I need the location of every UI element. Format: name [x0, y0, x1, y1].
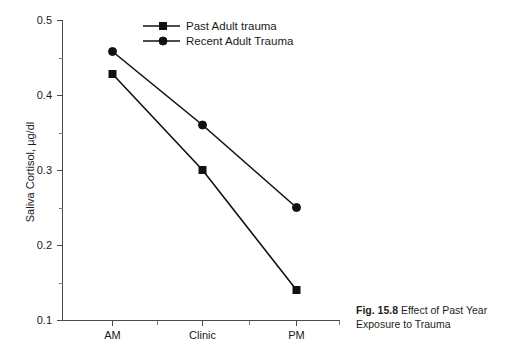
figure-number: Fig. 15.8	[356, 304, 398, 316]
y-tick-label-3: 0.2	[37, 239, 52, 251]
legend-marker-circle-recent	[159, 37, 167, 45]
series-layer	[109, 48, 301, 294]
y-tick-label-2: 0.3	[37, 164, 52, 176]
figure-caption: Fig. 15.8 Effect of Past Year Exposure t…	[356, 303, 506, 331]
chart-legend: Past Adult trauma Recent Adult Trauma	[143, 20, 294, 47]
data-point-past-am	[109, 71, 116, 78]
figure-container: 0.5 0.4 0.3 0.2 0.1 Saliva Cortisol, µg/…	[0, 0, 509, 358]
data-point-recent-am	[109, 48, 117, 56]
data-point-recent-clinic	[199, 121, 207, 129]
y-tick-label-0: 0.5	[37, 14, 52, 26]
y-axis-major-ticks	[57, 21, 63, 321]
x-axis-minor-ticks	[158, 321, 340, 325]
legend-label-past: Past Adult trauma	[186, 20, 277, 32]
series-line-past	[113, 74, 297, 290]
series-line-recent	[113, 52, 297, 208]
y-axis-title: Saliva Cortisol, µg/dl	[24, 122, 36, 223]
data-point-past-clinic	[199, 167, 206, 174]
legend-label-recent: Recent Adult Trauma	[186, 35, 294, 47]
y-tick-label-1: 0.4	[37, 89, 52, 101]
x-tick-label-clinic: Clinic	[189, 329, 216, 341]
x-tick-label-pm: PM	[288, 329, 305, 341]
y-tick-label-4: 0.1	[37, 314, 52, 326]
data-point-recent-pm	[293, 204, 301, 212]
legend-marker-square-past	[160, 23, 167, 30]
data-point-past-pm	[293, 287, 300, 294]
x-axis-major-ticks	[113, 321, 297, 327]
x-tick-label-am: AM	[104, 329, 121, 341]
